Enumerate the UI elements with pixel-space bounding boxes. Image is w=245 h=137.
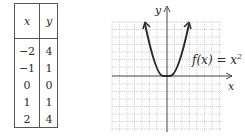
function-label: f(x) = x2 — [192, 52, 242, 67]
y-axis-label: y — [155, 4, 161, 17]
axes — [112, 8, 232, 132]
parabola-graph — [0, 0, 245, 137]
function-label-text: f(x) = x — [192, 53, 237, 67]
function-label-exponent: 2 — [237, 52, 242, 61]
x-axis-label: x — [228, 80, 234, 93]
